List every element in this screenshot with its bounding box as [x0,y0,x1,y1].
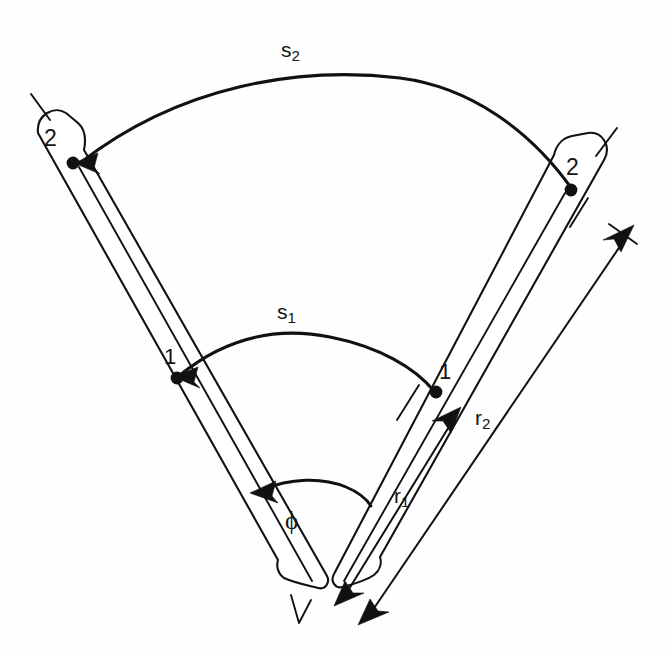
label-radius-inner-r1: r1 [394,484,409,510]
outer-arc-s2 [80,75,572,189]
right-arm-inner-edge [344,193,565,581]
figure-canvas: s2 s1 2 2 1 1 r1 r2 ϕ [0,0,672,651]
r1-extension-line-top [397,385,419,420]
label-endpoint-1-right: 1 [439,359,451,385]
inner-arc-s1 [180,333,434,391]
label-radius-outer-r2: r2 [475,406,490,432]
r2-arrowhead-bottom [358,599,389,625]
endpoint-dot-2-left [67,157,80,170]
left-cap-tick-icon [31,94,50,120]
endpoint-dot-2-right [565,184,578,197]
label-arc-outer-s2: s2 [281,38,300,64]
endpoint-dot-1-left [171,372,184,385]
label-angle-phi: ϕ [285,507,298,535]
label-endpoint-1-left: 1 [164,344,176,370]
endpoint-dot-1-right [430,386,443,399]
label-endpoint-2-left: 2 [44,125,57,152]
diagram-svg [0,0,672,651]
label-arc-inner-s1: s1 [277,300,296,326]
vertex-break-indicator-icon [291,595,311,623]
label-endpoint-2-right: 2 [566,154,579,181]
